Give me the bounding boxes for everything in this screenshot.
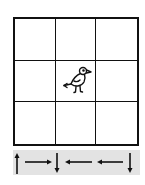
arrow-left-icon xyxy=(97,160,123,165)
grid-cell-1-3[interactable] xyxy=(96,19,137,61)
bird-icon xyxy=(61,65,93,97)
puzzle-grid xyxy=(13,17,139,146)
direction-sequence xyxy=(13,150,140,175)
grid-cell-3-3[interactable] xyxy=(96,102,137,144)
arrow-left-icon xyxy=(65,160,92,165)
arrow-down-icon xyxy=(128,153,133,173)
arrow-down-icon xyxy=(55,153,60,173)
arrow-up-icon xyxy=(15,153,20,174)
grid-cell-2-1[interactable] xyxy=(15,61,56,103)
grid-cell-2-2[interactable] xyxy=(56,61,97,103)
grid-cell-1-2[interactable] xyxy=(56,19,97,61)
grid-cell-3-2[interactable] xyxy=(56,102,97,144)
arrow-right-icon xyxy=(25,160,52,165)
grid-cell-3-1[interactable] xyxy=(15,102,56,144)
grid-cell-2-3[interactable] xyxy=(96,61,137,103)
grid-cell-1-1[interactable] xyxy=(15,19,56,61)
